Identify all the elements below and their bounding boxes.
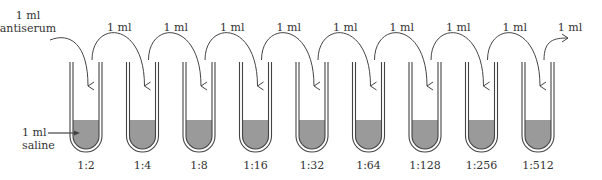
dilution-label: 1:2 bbox=[77, 160, 95, 172]
test-tube bbox=[127, 62, 159, 152]
test-tube bbox=[409, 62, 441, 152]
test-tube bbox=[522, 62, 554, 152]
transfer-volume-label: 1 ml bbox=[558, 22, 582, 34]
transfer-volume-label: 1 ml bbox=[446, 22, 470, 34]
dilution-label: 1:256 bbox=[466, 160, 498, 172]
test-tube bbox=[70, 62, 102, 152]
transfer-arrow bbox=[149, 33, 202, 86]
transfer-arrow bbox=[318, 33, 371, 86]
transfer-arrow bbox=[262, 33, 315, 86]
transfer-volume-label: 1 ml bbox=[333, 22, 357, 34]
dilution-label: 1:128 bbox=[409, 160, 441, 172]
transfer-arrow bbox=[375, 33, 428, 86]
transfer-volume-label: 1 ml bbox=[503, 22, 527, 34]
dilution-label: 1:64 bbox=[356, 160, 381, 172]
antiserum-transfer-arrow bbox=[50, 38, 88, 86]
transfer-arrow bbox=[431, 33, 484, 86]
test-tube bbox=[240, 62, 272, 152]
transfer-arrow bbox=[488, 33, 541, 86]
dilution-label: 1:512 bbox=[522, 160, 554, 172]
dilution-label: 1:8 bbox=[190, 160, 208, 172]
test-tube bbox=[296, 62, 328, 152]
saline-label: saline bbox=[22, 140, 55, 152]
test-tube bbox=[353, 62, 385, 152]
transfer-volume-label: 1 ml bbox=[390, 22, 414, 34]
transfer-volume-label: 1 ml bbox=[164, 22, 188, 34]
dilution-label: 1:32 bbox=[300, 160, 325, 172]
transfer-volume-label: 1 ml bbox=[220, 22, 244, 34]
dilution-label: 1:16 bbox=[243, 160, 268, 172]
transfer-arrow bbox=[92, 33, 145, 86]
antiserum-label: antiserum bbox=[0, 23, 56, 35]
test-tube bbox=[466, 62, 498, 152]
transfer-volume-label: 1 ml bbox=[277, 22, 301, 34]
dilution-label: 1:4 bbox=[134, 160, 152, 172]
saline-volume-label: 1 ml bbox=[22, 127, 46, 139]
discard-transfer-arrow bbox=[544, 38, 568, 60]
transfer-volume-label: 1 ml bbox=[107, 22, 131, 34]
test-tube bbox=[183, 62, 215, 152]
dilution-diagram: 1 ml antiserum 1 ml saline 1:21:41:81:16… bbox=[0, 0, 602, 180]
antiserum-volume-label: 1 ml bbox=[16, 10, 40, 22]
transfer-arrow bbox=[205, 33, 258, 86]
